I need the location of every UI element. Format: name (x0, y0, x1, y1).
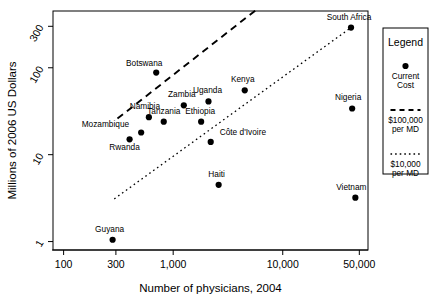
y-tick-label: 10 (29, 151, 45, 167)
x-tick-label: 1,000 (160, 258, 186, 270)
scatter-chart: 1003001,00010,00050,000300100101Number o… (0, 0, 434, 304)
data-point-label: Uganda (193, 85, 222, 95)
legend-label: per MD (392, 124, 419, 134)
chart-canvas: 1003001,00010,00050,000300100101Number o… (0, 0, 434, 304)
legend-title: Legend (388, 36, 423, 48)
data-point (153, 69, 159, 75)
data-point (198, 119, 204, 125)
y-tick-label: 100 (27, 64, 46, 85)
x-tick-label: 100 (55, 258, 73, 270)
data-point-label: Nigeria (335, 92, 362, 102)
data-point-label: Kenya (231, 74, 255, 84)
legend-label: Cost (397, 80, 415, 90)
data-point (352, 195, 358, 201)
x-tick-label: 50,000 (343, 258, 375, 270)
data-point (349, 105, 355, 111)
x-axis-title: Number of physicians, 2004 (139, 282, 282, 294)
x-tick-label: 300 (107, 258, 125, 270)
data-point-label: Guyana (95, 224, 124, 234)
legend-box (383, 28, 428, 174)
legend-marker-dot (402, 63, 408, 69)
data-point (242, 87, 248, 93)
x-tick-label: 10,000 (267, 258, 299, 270)
data-point (208, 139, 214, 145)
data-point-label: Rwanda (109, 142, 140, 152)
data-point (205, 98, 211, 104)
plot-frame (53, 11, 368, 250)
data-point (216, 182, 222, 188)
data-point-label: Vietnam (336, 182, 366, 192)
data-point (161, 119, 167, 125)
data-point (138, 129, 144, 135)
data-point (348, 24, 354, 30)
data-point-label: South Africa (327, 12, 372, 22)
y-axis-title: Millions of 2006 US Dollars (6, 61, 18, 199)
data-point-label: Côte d'Ivoire (220, 127, 267, 137)
data-point-label: Botswana (126, 58, 163, 68)
data-point-label: Zambia (168, 89, 196, 99)
data-point-label: Mozambique (82, 119, 130, 129)
data-point (110, 237, 116, 243)
data-point-label: Ethiopia (185, 106, 215, 116)
y-tick-label: 1 (32, 237, 45, 248)
y-tick-label: 300 (27, 22, 46, 43)
data-point-label: Haiti (208, 169, 225, 179)
data-point-label: Tanzania (147, 106, 181, 116)
legend-label: per MD (392, 168, 419, 178)
